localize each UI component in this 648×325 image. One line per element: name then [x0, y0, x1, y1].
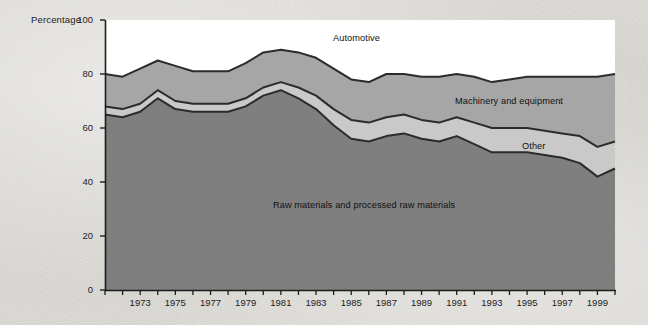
- y-tick-label: 20: [67, 230, 93, 241]
- x-tick-label: 1995: [510, 297, 544, 308]
- x-tick-label: 1979: [229, 297, 263, 308]
- y-tick-label: 40: [67, 176, 93, 187]
- series-label-raw-materials: Raw materials and processed raw material…: [273, 200, 455, 210]
- x-tick-label: 1977: [194, 297, 228, 308]
- x-tick-label: 1975: [158, 297, 192, 308]
- x-tick-label: 1999: [580, 297, 614, 308]
- y-tick-label: 60: [67, 122, 93, 133]
- y-tick-label: 100: [67, 14, 93, 25]
- x-tick-label: 1991: [440, 297, 474, 308]
- y-tick-label: 0: [67, 284, 93, 295]
- y-tick-marks: [100, 20, 105, 290]
- x-tick-label: 1997: [545, 297, 579, 308]
- area-bands: [105, 20, 615, 290]
- x-tick-label: 1993: [475, 297, 509, 308]
- x-tick-label: 1987: [369, 297, 403, 308]
- x-tick-label: 1983: [299, 297, 333, 308]
- y-tick-label: 80: [67, 68, 93, 79]
- x-tick-label: 1981: [264, 297, 298, 308]
- x-tick-label: 1973: [123, 297, 157, 308]
- x-tick-label: 1985: [334, 297, 368, 308]
- series-label-automotive: Automotive: [333, 33, 380, 43]
- series-label-machinery: Machinery and equipment: [455, 96, 563, 106]
- series-label-other: Other: [522, 141, 545, 151]
- x-tick-label: 1989: [405, 297, 439, 308]
- stacked-area-chart: [0, 0, 648, 325]
